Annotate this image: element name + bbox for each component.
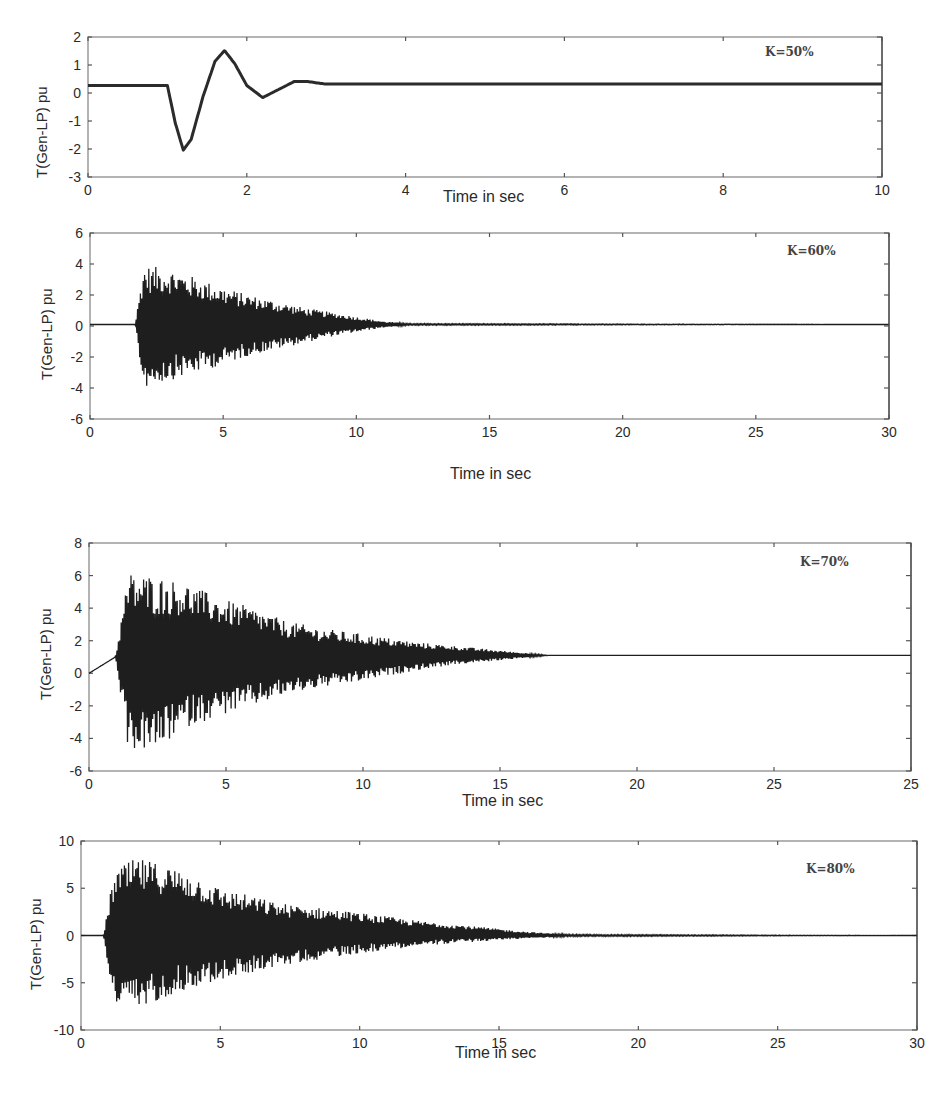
signal-trace: [81, 860, 917, 1004]
x-tick-label: 10: [355, 776, 371, 792]
y-tick-label: -2: [69, 141, 82, 157]
y-tick-label: 5: [66, 880, 74, 896]
y-tick-label: 2: [74, 633, 82, 649]
y-tick-label: 2: [75, 287, 83, 303]
y-tick-label: 1: [73, 57, 81, 73]
x-tick-label: 10: [352, 1035, 368, 1051]
x-tick-label: 15: [492, 776, 508, 792]
x-tick-label: 25: [770, 1035, 786, 1051]
y-tick-label: 8: [74, 535, 82, 551]
y-axis-label: T(Gen-LP) pu: [37, 608, 54, 700]
x-tick-label: 20: [631, 1035, 647, 1051]
x-tick-label: 30: [881, 424, 897, 440]
y-tick-label: 4: [74, 600, 82, 616]
y-tick-label: 0: [66, 928, 74, 944]
x-tick-label: 0: [77, 1035, 85, 1051]
y-tick-label: 10: [58, 833, 74, 849]
y-tick-label: -6: [70, 763, 83, 779]
k-label: K=70%: [800, 555, 849, 569]
x-tick-label: 8: [719, 182, 727, 198]
x-tick-label: 25: [903, 776, 919, 792]
x-tick-label: 6: [561, 182, 569, 198]
y-tick-label: -5: [62, 975, 75, 991]
y-tick-label: 6: [74, 568, 82, 584]
y-tick-label: -3: [69, 169, 82, 185]
y-tick-label: 0: [74, 665, 82, 681]
y-tick-label: 0: [73, 85, 81, 101]
y-tick-label: -2: [71, 349, 84, 365]
y-axis-label: T(Gen-LP) pu: [27, 898, 44, 990]
x-tick-label: 25: [766, 776, 782, 792]
k-label: K=50%: [765, 45, 814, 59]
x-tick-label: 2: [243, 182, 251, 198]
plot-k50: 0246810210-1-2-3: [0, 0, 940, 215]
k-label: K=80%: [806, 862, 855, 876]
x-tick-label: 30: [909, 1035, 925, 1051]
x-tick-label: 5: [219, 424, 227, 440]
panel-k80: 0510152025301050-5-10 T(Gen-LP) pu Time …: [0, 820, 940, 1095]
x-axis-label: Time in sec: [462, 792, 543, 810]
x-tick-label: 0: [85, 776, 93, 792]
y-tick-label: -4: [71, 380, 84, 396]
y-tick-label: -2: [70, 698, 83, 714]
x-tick-label: 10: [349, 424, 365, 440]
y-tick-label: -4: [70, 730, 83, 746]
x-tick-label: 25: [748, 424, 764, 440]
x-tick-label: 0: [86, 424, 94, 440]
y-tick-label: 0: [75, 318, 83, 334]
panel-k60: 0510152025306420-2-4-6 T(Gen-LP) pu Time…: [0, 220, 940, 520]
y-tick-label: -10: [54, 1022, 74, 1038]
plot-k70: 05101520252586420-2-4-6: [0, 530, 940, 820]
x-axis-label: Time in sec: [443, 188, 524, 206]
signal-trace: [89, 576, 911, 748]
y-tick-label: -6: [71, 411, 84, 427]
x-tick-label: 5: [216, 1035, 224, 1051]
x-tick-label: 10: [874, 182, 890, 198]
x-tick-label: 20: [629, 776, 645, 792]
signal-trace: [88, 51, 882, 150]
y-axis-label: T(Gen-LP) pu: [33, 86, 50, 178]
k-label: K=60%: [787, 244, 836, 258]
x-tick-label: 5: [222, 776, 230, 792]
y-tick-label: 6: [75, 225, 83, 241]
x-axis-label: Time in sec: [455, 1044, 536, 1062]
y-axis-label: T(Gen-LP) pu: [38, 288, 55, 380]
x-tick-label: 0: [84, 182, 92, 198]
y-tick-label: 2: [73, 29, 81, 45]
panel-k70: 05101520252586420-2-4-6 T(Gen-LP) pu Tim…: [0, 530, 940, 820]
signal-trace: [90, 267, 889, 386]
x-tick-label: 20: [615, 424, 631, 440]
y-tick-label: -1: [69, 113, 82, 129]
x-tick-label: 4: [402, 182, 410, 198]
y-tick-label: 4: [75, 256, 83, 272]
panel-k50: 0246810210-1-2-3 T(Gen-LP) pu Time in se…: [0, 0, 940, 215]
x-axis-label: Time in sec: [450, 465, 531, 483]
x-tick-label: 15: [482, 424, 498, 440]
